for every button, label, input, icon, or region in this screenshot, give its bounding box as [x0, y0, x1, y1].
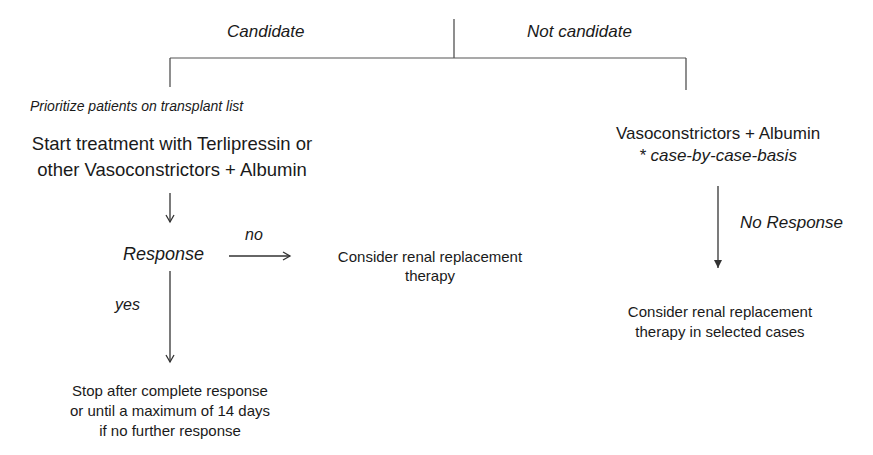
right-treatment-box: Vasoconstrictors + Albumin * case-by-cas…: [563, 123, 873, 167]
left-treatment-line1: Start treatment with Terlipressin or: [4, 131, 340, 157]
no-outcome-line2: therapy: [300, 266, 560, 285]
left-note-prioritize: Prioritize patients on transplant list: [30, 98, 243, 115]
left-treatment-box: Start treatment with Terlipressin or oth…: [4, 131, 340, 183]
right-treatment-line1: Vasoconstrictors + Albumin: [563, 123, 873, 145]
right-treatment-line2: * case-by-case-basis: [563, 145, 873, 167]
response-label: Response: [123, 244, 204, 266]
no-outcome-box: Consider renal replacement therapy: [300, 247, 560, 285]
no-outcome-line1: Consider renal replacement: [300, 247, 560, 266]
right-outcome-box: Consider renal replacement therapy in se…: [590, 302, 850, 342]
right-outcome-line1: Consider renal replacement: [590, 302, 850, 322]
right-outcome-line2: therapy in selected cases: [590, 322, 850, 342]
branch-label-candidate: Candidate: [227, 22, 305, 42]
yes-outcome-line2: or until a maximum of 14 days: [50, 401, 290, 421]
branch-label-not-candidate: Not candidate: [527, 22, 632, 42]
yes-outcome-line3: if no further response: [50, 421, 290, 441]
yes-outcome-line1: Stop after complete response: [50, 381, 290, 401]
no-label: no: [245, 225, 263, 244]
yes-outcome-box: Stop after complete response or until a …: [50, 381, 290, 441]
yes-label: yes: [115, 295, 140, 314]
left-treatment-line2: other Vasoconstrictors + Albumin: [4, 157, 340, 183]
no-response-label: No Response: [740, 213, 843, 233]
